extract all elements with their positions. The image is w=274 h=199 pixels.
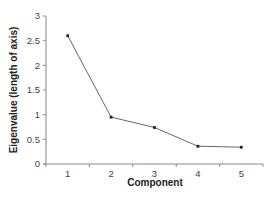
x-axis-title: Component (127, 177, 183, 188)
eigenvalue-series (66, 34, 242, 148)
y-tick-label: 1 (35, 109, 40, 120)
scree-plot: 00.511.522.53 12345 Component Eigenvalue… (0, 0, 274, 199)
x-tick-label: 1 (65, 168, 70, 179)
data-point-marker (110, 116, 113, 119)
y-tick-label: 0.5 (27, 134, 40, 145)
data-point-marker (240, 146, 243, 149)
y-tick-label: 3 (35, 10, 40, 21)
x-tick-label: 2 (108, 168, 113, 179)
x-tick-label: 4 (195, 168, 200, 179)
data-point-marker (153, 126, 156, 129)
y-tick-label: 0 (35, 158, 40, 169)
y-tick-label: 1.5 (27, 84, 40, 95)
y-tick-label: 2.5 (27, 35, 40, 46)
series-line (68, 36, 242, 148)
data-point-marker (197, 145, 200, 148)
y-axis: 00.511.522.53 (27, 10, 46, 169)
y-axis-title: Eigenvalue (length of axis) (8, 27, 19, 154)
x-tick-label: 5 (239, 168, 244, 179)
data-point-marker (66, 34, 69, 37)
y-tick-label: 2 (35, 60, 40, 71)
